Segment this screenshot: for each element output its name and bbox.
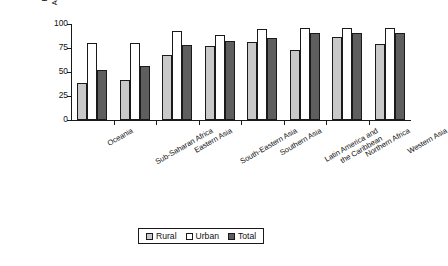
legend-swatch-total bbox=[228, 233, 235, 240]
bar-total-western-asia bbox=[395, 33, 405, 120]
bar-rural-eastern-asia bbox=[162, 55, 172, 120]
bar-group bbox=[247, 24, 277, 120]
x-tick-mark bbox=[284, 121, 285, 125]
bar-total-eastern-asia bbox=[182, 45, 192, 120]
bar-group bbox=[120, 24, 150, 120]
legend-item-urban: Urban bbox=[186, 231, 219, 241]
x-tick-mark bbox=[199, 121, 200, 125]
x-tick-mark bbox=[241, 121, 242, 125]
x-category-label-line: Oceania bbox=[106, 126, 135, 148]
bar-total-southern-asia bbox=[267, 38, 277, 120]
bar-urban-latin-america-and-the-caribbean bbox=[300, 28, 310, 120]
bar-group bbox=[290, 24, 320, 120]
legend-swatch-urban bbox=[186, 233, 193, 240]
y-tick-label: 25 bbox=[42, 90, 68, 100]
bar-urban-western-asia bbox=[385, 28, 395, 120]
bar-total-oceania bbox=[97, 70, 107, 120]
bar-urban-southern-asia bbox=[257, 29, 267, 120]
bar-rural-western-asia bbox=[375, 44, 385, 120]
x-tick-mark bbox=[156, 121, 157, 125]
bar-rural-sub-saharan-africa bbox=[120, 80, 130, 120]
x-tick-mark bbox=[114, 121, 115, 125]
y-tick-label: 0 bbox=[42, 114, 68, 124]
bar-total-south-eastern-asia bbox=[225, 41, 235, 120]
bar-group bbox=[332, 24, 362, 120]
bar-rural-oceania bbox=[77, 83, 87, 120]
bar-urban-eastern-asia bbox=[172, 31, 182, 120]
y-tick-label: 50 bbox=[42, 66, 68, 76]
legend-label: Total bbox=[238, 231, 256, 241]
bar-group bbox=[375, 24, 405, 120]
bar-group bbox=[205, 24, 235, 120]
legend-item-total: Total bbox=[228, 231, 256, 241]
x-category-label: Oceania bbox=[106, 126, 135, 148]
y-axis-title: Proportion of Population with Sustainabl… bbox=[40, 0, 59, 14]
bar-rural-latin-america-and-the-caribbean bbox=[290, 50, 300, 120]
bar-rural-southern-asia bbox=[247, 42, 257, 120]
bar-total-sub-saharan-africa bbox=[140, 66, 150, 120]
legend-item-rural: Rural bbox=[146, 231, 177, 241]
bar-group bbox=[162, 24, 192, 120]
plot-area: 0255075100 bbox=[71, 24, 411, 120]
y-axis-line bbox=[71, 24, 72, 120]
bar-total-latin-america-and-the-caribbean bbox=[310, 33, 320, 120]
chart-legend: RuralUrbanTotal bbox=[138, 228, 264, 244]
x-tick-mark bbox=[326, 121, 327, 125]
y-tick-label: 75 bbox=[42, 42, 68, 52]
bar-urban-south-eastern-asia bbox=[215, 35, 225, 120]
bar-group bbox=[77, 24, 107, 120]
x-category-label-line: Western Asia bbox=[406, 126, 448, 156]
y-tick-label: 100 bbox=[42, 18, 68, 28]
bar-rural-northern-africa bbox=[332, 37, 342, 120]
bar-urban-northern-africa bbox=[342, 28, 352, 120]
legend-swatch-rural bbox=[146, 233, 153, 240]
x-category-label: Western Asia bbox=[406, 126, 448, 156]
bar-urban-oceania bbox=[87, 43, 97, 120]
y-axis-title-container: Proportion of Population with Sustainabl… bbox=[2, 14, 42, 174]
legend-label: Urban bbox=[196, 231, 219, 241]
x-tick-mark bbox=[369, 121, 370, 125]
bar-rural-south-eastern-asia bbox=[205, 46, 215, 120]
legend-label: Rural bbox=[156, 231, 177, 241]
bar-total-northern-africa bbox=[352, 33, 362, 120]
bar-urban-sub-saharan-africa bbox=[130, 43, 140, 120]
